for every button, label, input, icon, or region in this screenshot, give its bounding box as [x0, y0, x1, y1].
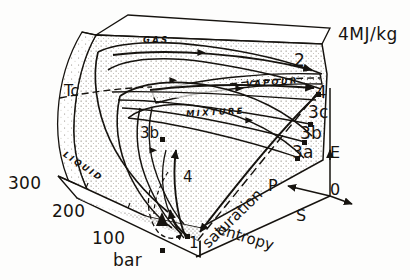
- state-point-3c-label: 3c: [308, 104, 329, 121]
- state-point-4-label: 4: [316, 84, 327, 101]
- axis-label-entropy-symbol: S: [296, 208, 306, 224]
- pressure-tick-200: 200: [52, 203, 85, 220]
- state-point-3a-label: 3a: [292, 144, 314, 161]
- axis-label-energy: E: [330, 145, 340, 161]
- axis-label-pressure: P: [268, 178, 278, 194]
- state-point-3b-label: 3b: [300, 125, 322, 142]
- state-point-4-inner-label: 4: [183, 170, 193, 185]
- pressure-unit-label: bar: [113, 252, 142, 269]
- pressure-tick-100: 100: [92, 230, 125, 247]
- state-point-1-label: 1: [189, 236, 199, 251]
- state-point-3b-inner-label: 3b: [140, 126, 159, 141]
- region-label-gas: GAS: [143, 36, 169, 45]
- state-point-2-label: 2: [294, 52, 305, 69]
- pressure-tick-300: 300: [8, 175, 41, 192]
- critical-temperature-label: Tc: [64, 84, 79, 99]
- axis-origin-label: 0: [330, 182, 340, 198]
- diagram-canvas: 4MJ/kg GAS VAPOUR MIXTURE LIQUID Tc 2 4 …: [0, 0, 410, 280]
- energy-unit-annotation: 4MJ/kg: [338, 26, 398, 43]
